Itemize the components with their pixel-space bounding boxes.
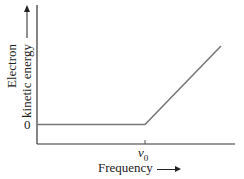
y-axis-label-line1: Electron [4, 14, 19, 118]
kinetic-energy-curve [37, 46, 221, 125]
x-label-arrow-icon [157, 169, 179, 170]
x-axis-label: Frequency [98, 161, 179, 174]
chart-canvas [0, 0, 244, 179]
y-axis-label-line2: kinetic energy [19, 44, 34, 118]
y-tick-zero: 0 [24, 118, 31, 131]
y-axis-label: Electron kinetic energy [2, 8, 36, 123]
